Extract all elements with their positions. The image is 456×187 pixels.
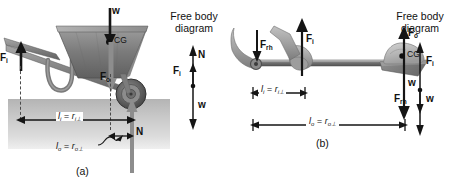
fbd-arrow-fi-b [414,42,426,90]
label-lo-b: lo = ro⊥ [306,117,339,126]
label-frh-b: Frh [260,40,273,51]
fbd-label-w-b: w [426,94,434,105]
label-lo-a: lo = ro⊥ [56,142,83,151]
free-body-diagram-b: Free body diagram Fi Frh [384,10,456,135]
label-fi-a: Fi [0,53,8,64]
fbd-label-w-a: w [198,100,206,111]
fbd-label-fi-b: Fi [426,56,434,67]
fbd-label-frh-b: Frh [394,94,407,105]
panel-label-a: (a) [76,166,89,177]
fbd-label-fi-a: Fi [173,66,181,77]
fbd-label-n-a: N [198,50,205,61]
force-arrow-fo-a [104,42,118,92]
panel-label-b: (b) [316,138,329,149]
label-w-a: w [112,6,120,17]
label-li-b: li = ri⊥ [259,85,286,94]
dashed-line-handle-a [20,66,21,120]
physics-lever-figure: w CG Fi Fo N [0,0,456,187]
panel-a: w CG Fi Fo N [0,0,232,187]
free-body-diagram-a: Free body diagram N Fi [160,10,228,130]
label-fi-b: Fi [306,34,314,45]
label-fo-a: Fo [100,72,110,83]
force-arrow-fi-b [294,18,310,76]
fbd-title-a: Free body diagram [160,10,228,34]
panel-b: Frh Fi Fo CG w [232,0,456,187]
fbd-arrow-w-b [414,92,426,136]
label-n-a: N [136,127,143,138]
fbd-title-b: Free body diagram [384,10,456,34]
fbd-arrow-fi-a [187,63,199,85]
label-li-a: li = ri⊥ [56,112,83,121]
leader-curve-lo-a [96,128,124,150]
force-arrow-fi-a [13,41,29,71]
